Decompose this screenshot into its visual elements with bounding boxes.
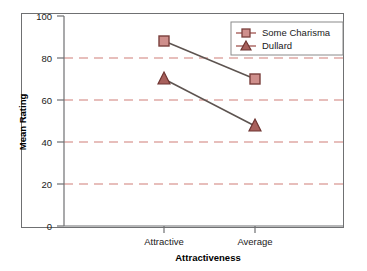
data-point-some-charisma-attractive (159, 36, 169, 46)
figure-container: 100 80 60 40 20 0 Mean Rating Attractive… (0, 0, 367, 271)
x-tick-label-attractive: Attractive (144, 236, 184, 247)
legend-label-dullard: Dullard (262, 40, 292, 51)
data-point-dullard-average (249, 119, 261, 131)
y-axis-tick-labels: 100 80 60 40 20 0 (36, 11, 52, 232)
legend[interactable]: Some Charisma Dullard (231, 22, 343, 55)
gridlines (64, 58, 343, 184)
y-tick-label-20: 20 (41, 179, 52, 190)
y-tick-label-80: 80 (41, 53, 52, 64)
series-line-dullard (164, 79, 255, 126)
data-point-dullard-attractive (158, 72, 170, 84)
y-tick-label-100: 100 (36, 11, 52, 22)
x-axis-tick-labels: Attractive Average (144, 236, 272, 247)
y-axis-title: Mean Rating (17, 94, 28, 151)
y-tick-label-40: 40 (41, 137, 52, 148)
data-point-some-charisma-average (250, 74, 260, 84)
y-tick-label-60: 60 (41, 95, 52, 106)
y-tick-label-0: 0 (47, 221, 52, 232)
x-tick-label-average: Average (237, 236, 272, 247)
y-axis-ticks (57, 16, 64, 226)
legend-label-some-charisma: Some Charisma (262, 27, 331, 38)
chart-canvas: 100 80 60 40 20 0 Mean Rating Attractive… (0, 0, 367, 271)
square-marker (242, 29, 250, 37)
legend-item-some-charisma[interactable]: Some Charisma (236, 27, 331, 38)
series-dullard (158, 72, 261, 131)
x-axis-ticks (164, 226, 255, 233)
x-axis-title: Attractiveness (175, 252, 240, 263)
